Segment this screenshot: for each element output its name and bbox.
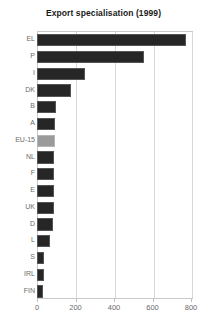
chart-title: Export specialisation (1999) bbox=[0, 8, 207, 18]
bar-a bbox=[37, 118, 55, 130]
x-tick-label-400: 400 bbox=[99, 303, 129, 312]
bar-i bbox=[37, 68, 85, 80]
x-tick-label-0: 0 bbox=[22, 303, 52, 312]
bar-row bbox=[37, 66, 193, 83]
bar-nl bbox=[37, 151, 54, 163]
x-tick-mark-400 bbox=[114, 299, 115, 302]
bar-l bbox=[37, 235, 50, 247]
y-label-f: F bbox=[0, 169, 35, 177]
y-label-e: E bbox=[0, 186, 35, 194]
bar-row bbox=[37, 216, 193, 233]
bar-row bbox=[37, 133, 193, 150]
bar-row bbox=[37, 250, 193, 267]
bar-row bbox=[37, 99, 193, 116]
bar-row bbox=[37, 49, 193, 66]
bar-f bbox=[37, 168, 54, 180]
x-tick-mark-800 bbox=[191, 299, 192, 302]
bar-s bbox=[37, 252, 44, 264]
bar-irl bbox=[37, 269, 44, 281]
y-label-nl: NL bbox=[0, 153, 35, 161]
bar-uk bbox=[37, 202, 54, 214]
y-label-s: S bbox=[0, 253, 35, 261]
y-label-i: I bbox=[0, 69, 35, 77]
bar-row bbox=[37, 166, 193, 183]
bar-row bbox=[37, 200, 193, 217]
bar-dk bbox=[37, 84, 71, 96]
chart-container: Export specialisation (1999) ELPIDKBAEU-… bbox=[0, 0, 207, 334]
bar-d bbox=[37, 218, 53, 230]
y-label-eu-15: EU-15 bbox=[0, 136, 35, 144]
y-label-l: L bbox=[0, 236, 35, 244]
bars-layer bbox=[37, 31, 193, 299]
y-label-d: D bbox=[0, 220, 35, 228]
bar-p bbox=[37, 51, 144, 63]
y-label-uk: UK bbox=[0, 203, 35, 211]
bar-b bbox=[37, 101, 56, 113]
bar-row bbox=[37, 82, 193, 99]
x-tick-label-600: 600 bbox=[138, 303, 168, 312]
bar-row bbox=[37, 116, 193, 133]
x-tick-mark-0 bbox=[37, 299, 38, 302]
bar-eu-15 bbox=[37, 135, 55, 147]
y-label-fin: FIN bbox=[0, 287, 35, 295]
x-tick-mark-200 bbox=[76, 299, 77, 302]
bar-el bbox=[37, 34, 186, 46]
y-label-irl: IRL bbox=[0, 270, 35, 278]
bar-row bbox=[37, 283, 193, 300]
y-label-p: P bbox=[0, 52, 35, 60]
bar-row bbox=[37, 267, 193, 284]
bar-row bbox=[37, 233, 193, 250]
bar-row bbox=[37, 149, 193, 166]
x-tick-mark-600 bbox=[153, 299, 154, 302]
x-tick-label-200: 200 bbox=[61, 303, 91, 312]
y-label-b: B bbox=[0, 102, 35, 110]
y-label-a: A bbox=[0, 119, 35, 127]
bar-fin bbox=[37, 285, 43, 297]
y-label-dk: DK bbox=[0, 86, 35, 94]
bar-row bbox=[37, 32, 193, 49]
y-label-el: EL bbox=[0, 35, 35, 43]
bar-e bbox=[37, 185, 54, 197]
bar-row bbox=[37, 183, 193, 200]
x-tick-label-800: 800 bbox=[176, 303, 206, 312]
